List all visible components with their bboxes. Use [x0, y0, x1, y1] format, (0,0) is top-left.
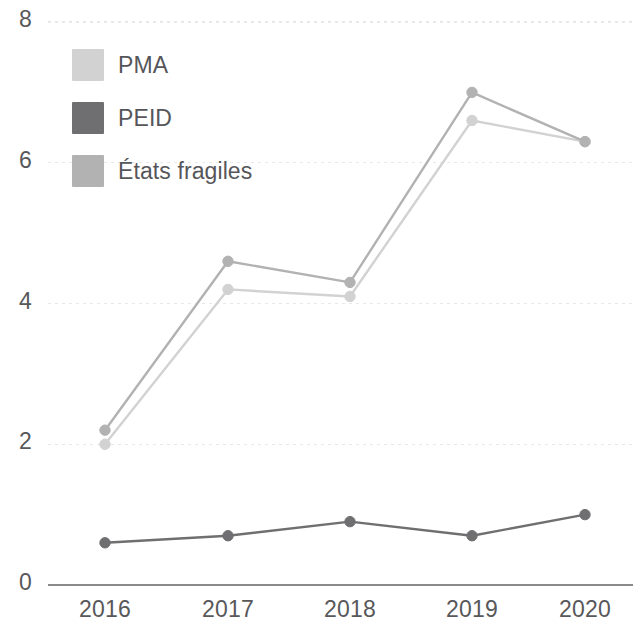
data-point — [345, 291, 355, 301]
data-point — [580, 509, 590, 519]
data-point — [467, 531, 477, 541]
data-point — [345, 277, 355, 287]
legend-swatch-peid — [72, 102, 104, 134]
x-axis-tick-2019: 2019 — [427, 596, 517, 623]
y-axis-tick-2: 2 — [2, 428, 32, 455]
x-axis-tick-2020: 2020 — [540, 596, 630, 623]
data-point — [223, 284, 233, 294]
y-axis-tick-6: 6 — [2, 147, 32, 174]
data-point — [580, 136, 590, 146]
line-chart: 02468 20162017201820192020 PMAPEIDÉtats … — [0, 0, 633, 628]
data-point — [100, 538, 110, 548]
x-axis-tick-2016: 2016 — [60, 596, 150, 623]
legend-label-peid: PEID — [118, 105, 172, 132]
legend-item-peid[interactable]: PEID — [72, 101, 252, 135]
legend-swatch-pma — [72, 49, 104, 81]
x-axis-tick-2018: 2018 — [305, 596, 395, 623]
data-point — [100, 425, 110, 435]
y-axis-tick-4: 4 — [2, 288, 32, 315]
data-point — [467, 87, 477, 97]
chart-legend: PMAPEIDÉtats fragiles — [72, 48, 252, 188]
data-point — [223, 256, 233, 266]
legend-label-pma: PMA — [118, 52, 168, 79]
series-peid — [100, 509, 590, 548]
data-point — [467, 115, 477, 125]
y-axis-tick-8: 8 — [2, 6, 32, 33]
legend-swatch-tats-fragiles — [72, 155, 104, 187]
x-axis-tick-2017: 2017 — [183, 596, 273, 623]
data-point — [345, 516, 355, 526]
legend-item-tats-fragiles[interactable]: États fragiles — [72, 154, 252, 188]
legend-item-pma[interactable]: PMA — [72, 48, 252, 82]
data-point — [100, 439, 110, 449]
data-point — [223, 531, 233, 541]
y-axis-tick-0: 0 — [2, 569, 32, 596]
legend-label-tats-fragiles: États fragiles — [118, 158, 252, 185]
